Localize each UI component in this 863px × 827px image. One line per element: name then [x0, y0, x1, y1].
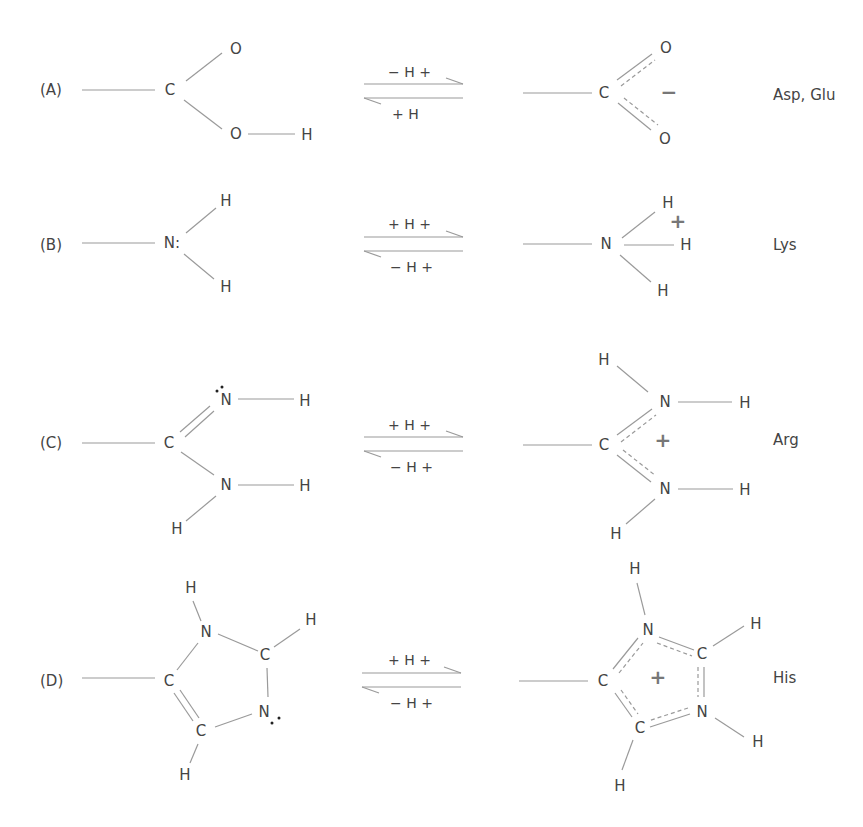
atom-o: O [659, 130, 671, 148]
atom-h: H [614, 777, 625, 795]
arrow-top-label: + H + [388, 417, 431, 433]
arrow-bottom-label: − H + [390, 695, 433, 711]
atom-c: C [635, 719, 645, 737]
atom-n: N [600, 235, 611, 253]
residue-label: Asp, Glu [773, 86, 835, 104]
atom-o: O [230, 40, 242, 58]
atom-n-lone-pair: N [258, 703, 269, 721]
positive-charge-icon: + [670, 209, 687, 233]
atom-h: H [305, 611, 316, 629]
atom-h: H [220, 192, 231, 210]
atom-n: N [200, 623, 211, 641]
arrow-bottom-label: + H [392, 106, 419, 122]
atom-c: C [196, 722, 206, 740]
row-d: (D) C N H C H N C H + H + − H + C N [40, 560, 796, 795]
row-label-d: (D) [40, 672, 63, 690]
atom-h: H [179, 766, 190, 784]
ionizable-side-chains-diagram: (A) C O O H − H + + H C O O − Asp, Glu (… [0, 0, 863, 827]
atom-h: H [171, 520, 182, 538]
positive-charge-icon: + [655, 428, 672, 452]
residue-label: Arg [773, 431, 799, 449]
equilibrium-arrow-icon [364, 231, 463, 257]
row-label-b: (B) [40, 236, 62, 254]
residue-label: His [773, 669, 796, 687]
equilibrium-arrow-icon [362, 667, 461, 693]
positive-charge-icon: + [650, 665, 667, 689]
atom-h: H [610, 525, 621, 543]
negative-charge-icon: − [661, 80, 678, 104]
atom-h: H [185, 579, 196, 597]
lone-pair-dot-icon [216, 390, 219, 393]
atom-n: N [642, 621, 653, 639]
lone-pair-dot-icon [221, 386, 224, 389]
atom-h: H [739, 394, 750, 412]
atom-h: H [739, 481, 750, 499]
arrow-bottom-label: − H + [390, 459, 433, 475]
atom-h: H [657, 282, 668, 300]
atom-n: N [220, 476, 231, 494]
atom-n-lone-pair: N [220, 391, 231, 409]
atom-o: O [230, 125, 242, 143]
atom-n: N [659, 393, 670, 411]
residue-label: Lys [773, 236, 797, 254]
atom-c: C [164, 672, 174, 690]
atom-n: N [696, 703, 707, 721]
atom-n: N [659, 480, 670, 498]
atom-c: C [164, 434, 174, 452]
atom-h: H [301, 126, 312, 144]
arrow-top-label: + H + [388, 652, 431, 668]
atom-o: O [660, 39, 672, 57]
atom-c: C [599, 436, 609, 454]
atom-h: H [220, 278, 231, 296]
atom-c: C [599, 84, 609, 102]
atom-c: C [260, 646, 270, 664]
row-b: (B) N: H H + H + − H + N H + H H Lys [40, 192, 797, 300]
atom-h: H [750, 615, 761, 633]
equilibrium-arrow-icon [364, 431, 463, 457]
arrow-top-label: − H + [388, 64, 431, 80]
row-label-c: (C) [40, 434, 62, 452]
atom-h: H [752, 733, 763, 751]
atom-c: C [598, 672, 608, 690]
equilibrium-arrow-icon [364, 78, 463, 104]
arrow-top-label: + H + [388, 216, 431, 232]
row-a: (A) C O O H − H + + H C O O − Asp, Glu [40, 39, 835, 148]
atom-h: H [598, 351, 609, 369]
row-label-a: (A) [40, 81, 62, 99]
atom-h: H [299, 477, 310, 495]
lone-pair-dot-icon [271, 722, 274, 725]
atom-h: H [629, 560, 640, 578]
arrow-bottom-label: − H + [390, 259, 433, 275]
atom-c: C [697, 645, 707, 663]
row-c: (C) C N H N H H + H + − H + C H N H + [40, 351, 799, 543]
atom-n-lone-pair: N: [164, 234, 180, 252]
atom-h: H [680, 236, 691, 254]
lone-pair-dot-icon [278, 717, 281, 720]
atom-h: H [299, 392, 310, 410]
atom-c: C [165, 81, 175, 99]
